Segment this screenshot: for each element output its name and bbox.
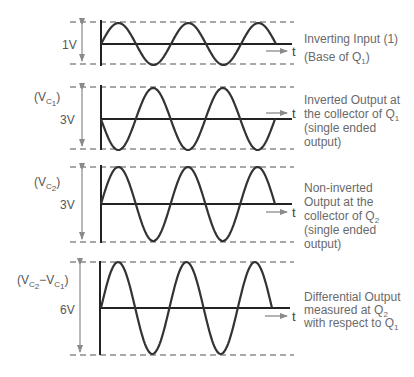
panel-inverting-input: 1V t Inverting Input (1) (Base of Q1) [62, 20, 398, 66]
description-line: (single ended [304, 121, 376, 135]
amplitude-label: 3V [60, 113, 75, 127]
time-label: t [292, 205, 296, 220]
description-line: with respect to Q1 [303, 316, 399, 332]
description-line: Inverting Input (1) [304, 32, 398, 46]
time-label: t [292, 309, 296, 324]
description-line: Non-inverted [304, 181, 373, 195]
panel-non-inverted-output: (VC2) 3V t Non-inverted Output at the co… [34, 165, 380, 251]
panel-differential-output: (VC2−VC1) 6V t Differential Output measu… [17, 261, 401, 355]
description-line: Output at the [304, 195, 374, 209]
time-label: t [292, 106, 296, 121]
amplitude-label: 3V [60, 198, 75, 212]
description-line: Inverted Output at [304, 93, 401, 107]
description-line: Differential Output [304, 290, 401, 304]
description-line: (Base of Q1) [304, 50, 370, 66]
signal-name-label: (VC2−VC1) [17, 273, 68, 291]
amplitude-label: 1V [62, 38, 77, 52]
signal-name-label: (VC2) [34, 175, 60, 193]
description-line: output) [304, 135, 341, 149]
panel-inverted-output: (VC1) 3V t Inverted Output at the collec… [34, 85, 401, 150]
signal-name-label: (VC1) [34, 90, 60, 108]
description-line: output) [304, 237, 341, 251]
description-line: (single ended [304, 223, 376, 237]
time-label: t [292, 44, 296, 59]
amplitude-label: 6V [60, 303, 75, 317]
differential-amplifier-waveforms: 1V t Inverting Input (1) (Base of Q1) (V… [0, 0, 414, 377]
